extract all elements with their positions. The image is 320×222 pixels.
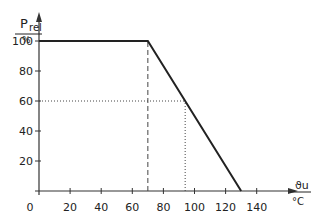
x-axis-label-main: ϑu (295, 179, 309, 192)
x-tick-label: 40 (94, 201, 108, 214)
x-tick-label: 80 (156, 201, 170, 214)
x-axis-unit: °C (292, 196, 304, 207)
y-tick-label: 60 (19, 95, 33, 108)
x-tick-label: 120 (215, 201, 236, 214)
y-tick-label: 80 (19, 65, 33, 78)
y-tick-label: 20 (19, 155, 33, 168)
x-tick-label: 60 (125, 201, 139, 214)
x-tick-label: 100 (184, 201, 205, 214)
guide-lines (39, 41, 185, 191)
x-tick-label: 140 (246, 201, 267, 214)
axis-labels: P rel % ϑu °C (15, 16, 311, 207)
y-axis-arrow-icon (36, 12, 42, 22)
y-axis-unit: % (22, 35, 31, 45)
y-axis-label-sub: rel (29, 22, 42, 33)
axes (35, 12, 298, 195)
ticks: 02040608010012014020406080100 (12, 35, 267, 214)
x-tick-label: 20 (63, 201, 77, 214)
y-axis-label-main: P (20, 16, 28, 31)
y-tick-label: 40 (19, 125, 33, 138)
data-series (39, 41, 241, 191)
derating-chart: 02040608010012014020406080100 P rel % ϑu… (0, 0, 320, 222)
x-tick-label: 0 (27, 201, 34, 214)
derating-curve (39, 41, 241, 191)
